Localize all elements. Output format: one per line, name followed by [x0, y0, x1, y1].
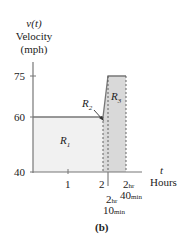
xtick-1: 1	[65, 178, 71, 190]
annotation-2h40-minutes: 40min	[120, 189, 142, 203]
xtick-2: 2	[99, 178, 105, 190]
ytick-40: 40	[14, 166, 25, 178]
y-var-label: v(t)	[16, 17, 52, 29]
figure-caption: (b)	[95, 221, 108, 233]
ytick-75: 75	[14, 70, 25, 82]
region-r3-label: R3	[111, 90, 121, 107]
annotation-2h10-minutes: 10min	[103, 204, 125, 218]
region-r2-label: R2	[82, 97, 92, 114]
y-axis-title: Velocity	[8, 30, 60, 42]
region-r1-label: R1	[60, 134, 70, 151]
x-var-label: t	[160, 164, 163, 176]
y-axis-unit: (mph)	[8, 43, 60, 55]
ytick-60: 60	[14, 111, 25, 123]
x-axis-title: Hours	[150, 176, 177, 188]
